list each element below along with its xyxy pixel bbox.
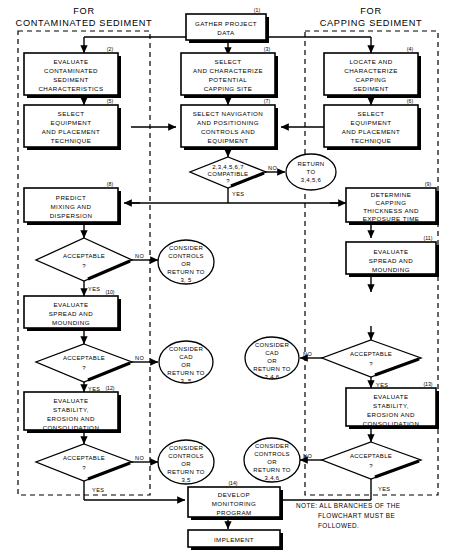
node-evaluate-contaminated-sediment[interactable]: (2) EVALUATE CONTAMINATED SEDIMENT CHARA… (24, 46, 121, 98)
node-label-line: MIXING AND (51, 203, 92, 210)
terminator-label-line: RETURN TO (167, 269, 205, 275)
note-line-2: FLOWCHART MUST BE (318, 512, 395, 519)
node-label-line: STABILITY, (373, 402, 409, 409)
terminator-label-line: OR (267, 358, 277, 364)
note-block: NOTE: ALL BRANCHES OF THE FLOWCHART MUST… (296, 502, 400, 529)
node-label-line: SELECT (358, 110, 385, 117)
node-number: (8) (107, 181, 114, 187)
decision-yes-label: YES (232, 191, 244, 197)
terminator-label-line: 3, 5 (180, 277, 192, 283)
terminator-label-line: 3, 5 (180, 378, 192, 384)
terminator-label-line: OR (267, 459, 277, 465)
terminator-label-line: OR (181, 362, 191, 368)
node-label-line: SELECT (215, 58, 242, 65)
node-label-line: EROSION AND (367, 411, 415, 418)
node-number: (9) (425, 181, 432, 187)
decision-label-line: ACCEPTABLE (63, 455, 105, 461)
node-label-line: SELECT (58, 110, 85, 117)
terminator-label-line: 3,4,6 (265, 374, 280, 380)
decision-acceptable-left-3[interactable]: ACCEPTABLE ? NO YES (36, 444, 144, 493)
node-label-line: CONTAMINATED (44, 67, 98, 74)
decision-no-label: NO (303, 351, 312, 357)
node-label-line: MOUNDING (372, 266, 410, 273)
node-evaluate-spread-mounding-right[interactable]: (11) EVALUATE SPREAD AND MOUNDING (346, 235, 439, 277)
decision-no-label: NO (135, 355, 144, 361)
node-label-line: AND POSITIONING (197, 119, 259, 126)
node-select-characterize-capping-site[interactable]: (3) SELECT AND CHARACTERIZE POTENTIAL CA… (181, 46, 278, 98)
node-label-line: CAPPING (356, 76, 387, 83)
node-label-line: MONITORING (212, 500, 257, 507)
node-label-line: IMPLEMENT (214, 536, 254, 543)
decision-compatible[interactable]: 2,3,4,5,6,7 COMPATIBLE ? NO YES (190, 157, 277, 197)
header-left-line1: FOR (73, 6, 95, 16)
node-label-line: AND PLACEMENT (342, 128, 400, 135)
terminator-consider-controls-right[interactable]: CONSIDER CONTROLS OR RETURN TO 3,4,6 (244, 438, 300, 482)
terminator-label-line: CAD (265, 350, 279, 356)
terminator-consider-cad-right[interactable]: CONSIDER CAD OR RETURN TO 3,4,6 (245, 337, 299, 380)
terminator-consider-controls-left-3[interactable]: CONSIDER CONTROLS OR RETURN TO 3,5 (158, 440, 214, 484)
terminator-label-line: CONTROLS (168, 453, 204, 459)
decision-label-line: COMPATIBLE (208, 171, 249, 177)
terminator-return-to-3456[interactable]: RETURN TO 3,4,5,6 (286, 154, 336, 190)
decision-acceptable-right-1[interactable]: ACCEPTABLE ? NO YES (303, 340, 421, 388)
node-label-line: EVALUATE (53, 301, 88, 308)
header-left-line2: CONTAMINATED SEDIMENT (16, 18, 153, 28)
node-label-line: PREDICT (56, 194, 86, 201)
node-label-line: AND PLACEMENT (42, 128, 100, 135)
node-predict-mixing-dispersion[interactable]: (8) PREDICT MIXING AND DISPERSION (24, 181, 121, 225)
node-develop-monitoring-program[interactable]: (14) DEVELOP MONITORING PROGRAM (188, 480, 283, 520)
terminator-label-line: CONSIDER (169, 346, 203, 352)
node-label-line: EQUIPMENT (208, 137, 249, 144)
header-right-line2: CAPPING SEDIMENT (320, 18, 423, 28)
node-label-line: MOUNDING (52, 319, 90, 326)
node-label-line: AND CHARACTERIZE (193, 67, 263, 74)
node-number: (6) (407, 98, 414, 104)
decision-acceptable-right-2[interactable]: ACCEPTABLE ? NO YES (303, 442, 421, 492)
node-number: (14) (228, 480, 237, 486)
header-right-line1: FOR (360, 6, 382, 16)
terminator-label-line: CAD (179, 354, 193, 360)
node-locate-characterize-capping-sediment[interactable]: (4) LOCATE AND CHARACTERIZE CAPPING SEDI… (324, 46, 421, 98)
node-label-line: CAPPING (376, 199, 407, 206)
node-label-line: EVALUATE (53, 397, 88, 404)
node-label-line: CHARACTERIZE (344, 67, 398, 74)
terminator-label-line: CONSIDER (255, 443, 289, 449)
node-determine-capping-thickness[interactable]: (9) DETERMINE CAPPING THICKNESS AND EXPO… (346, 181, 439, 225)
node-label-line: EVALUATE (373, 248, 408, 255)
decision-yes-label: YES (88, 286, 100, 292)
terminator-label-line: OR (181, 261, 191, 267)
decision-label-line: ? (82, 365, 86, 371)
node-select-navigation-positioning[interactable]: (7) SELECT NAVIGATION AND POSITIONING CO… (181, 98, 278, 150)
decision-yes-label: YES (92, 487, 104, 493)
terminator-label-line: TO (307, 169, 316, 175)
node-number: (10) (105, 289, 114, 295)
node-gather-project-data[interactable]: (1) GATHER PROJECT DATA (186, 7, 269, 43)
node-label-line: CAPPING SITE (204, 85, 253, 92)
node-label-line: EVALUATE (373, 393, 408, 400)
decision-yes-label: YES (378, 486, 390, 492)
terminator-consider-controls-left-1[interactable]: CONSIDER CONTROLS OR RETURN TO 3, 5 (158, 240, 214, 284)
terminator-label-line: 3,4,6 (265, 475, 280, 481)
decision-acceptable-left-2[interactable]: ACCEPTABLE ? NO YES (36, 344, 144, 392)
node-label-line: LOCATE AND (349, 58, 392, 65)
decision-label-line: ? (82, 465, 86, 471)
note-line-1: NOTE: ALL BRANCHES OF THE (296, 502, 400, 509)
node-number: (5) (107, 98, 114, 104)
decision-label-line: ? (226, 178, 230, 184)
node-number: (12) (105, 385, 114, 391)
node-select-equipment-placement-left[interactable]: (5) SELECT EQUIPMENT AND PLACEMENT TECHN… (24, 98, 121, 150)
terminator-consider-cad-left[interactable]: CONSIDER CAD OR RETURN TO 3, 5 (159, 341, 213, 384)
decision-label-line: ACCEPTABLE (63, 355, 105, 361)
node-select-equipment-placement-right[interactable]: (6) SELECT EQUIPMENT AND PLACEMENT TECHN… (324, 98, 421, 150)
flowchart-figure: FOR CONTAMINATED SEDIMENT FOR CAPPING SE… (0, 0, 456, 553)
node-evaluate-stability-right[interactable]: (13) EVALUATE STABILITY, EROSION AND CON… (346, 381, 439, 429)
node-label-line: SPREAD AND (49, 310, 93, 317)
node-label-line: TECHNIQUE (351, 137, 392, 144)
node-label-line: CHARACTERISTICS (38, 85, 103, 92)
node-evaluate-stability-left[interactable]: (12) EVALUATE STABILITY, EROSION AND CON… (24, 385, 121, 433)
node-label-line: EVALUATE (53, 58, 88, 65)
note-line-3: FOLLOWED. (318, 522, 359, 529)
decision-acceptable-left-1[interactable]: ACCEPTABLE ? NO YES (36, 238, 144, 292)
node-implement[interactable]: IMPLEMENT (188, 530, 283, 550)
node-evaluate-spread-mounding-left[interactable]: (10) EVALUATE SPREAD AND MOUNDING (24, 289, 121, 331)
